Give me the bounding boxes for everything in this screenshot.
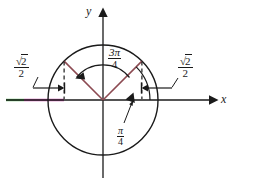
- left-coordinate-value-label: √2 2: [14, 56, 29, 79]
- radius-line-135deg: [64, 61, 103, 100]
- figure-canvas: [0, 0, 271, 185]
- unit-circle-figure: y x √2 2 √2 2 3π 4 π 4: [0, 0, 271, 185]
- main-angle-fraction: 3π 4: [108, 47, 121, 70]
- left-value-radical-group: √2: [15, 56, 28, 67]
- main-angle-denominator: 4: [108, 58, 121, 70]
- y-axis-label: y: [86, 5, 91, 17]
- left-value-numerator: √2: [14, 56, 29, 67]
- angle-arc-pi-over-4: [136, 67, 150, 100]
- right-value-fraction: √2 2: [178, 56, 193, 79]
- left-value-radicand: 2: [21, 54, 28, 67]
- main-angle-label: 3π 4: [108, 47, 121, 70]
- reference-angle-denominator: 4: [117, 136, 124, 147]
- left-value-fraction: √2 2: [14, 56, 29, 79]
- right-value-denominator: 2: [178, 67, 193, 79]
- x-axis-arrowhead: [209, 95, 219, 105]
- reference-angle-leader-line: [124, 105, 131, 123]
- angle-arc-pi-over-4-arrowhead: [126, 93, 135, 104]
- right-value-radicand: 2: [185, 54, 192, 67]
- left-value-denominator: 2: [14, 67, 29, 79]
- reference-angle-fraction: π 4: [117, 126, 124, 147]
- reference-angle-numerator: π: [117, 126, 124, 136]
- right-coordinate-value-label: √2 2: [178, 56, 193, 79]
- left-label-leader-line: [33, 77, 38, 87]
- right-value-radical-group: √2: [179, 56, 192, 67]
- reference-angle-label: π 4: [117, 126, 124, 147]
- right-value-numerator: √2: [178, 56, 193, 67]
- x-axis-label: x: [221, 93, 226, 105]
- y-axis-arrowhead: [98, 8, 107, 18]
- main-angle-numerator: 3π: [108, 47, 121, 58]
